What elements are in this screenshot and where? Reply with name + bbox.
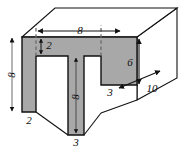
figure-root: 8 2 8 8 6 2 3 3 10 [0, 0, 181, 150]
dim-label-left-leg-width: 2 [26, 114, 32, 126]
dim-label-right-leg-width: 3 [106, 86, 113, 98]
dim-label-prism-depth: 10 [147, 82, 159, 94]
dim-label-flange-thickness: 2 [46, 39, 52, 51]
dim-label-stem-width: 3 [72, 136, 79, 148]
u-shaped-prism-svg: 8 2 8 8 6 2 3 3 10 [0, 0, 181, 150]
dim-label-top-width: 8 [77, 24, 83, 36]
dim-label-overall-height: 8 [5, 72, 17, 78]
dim-label-right-height: 6 [127, 56, 133, 68]
solid-body [22, 8, 177, 135]
dim-label-stem-height: 8 [69, 94, 81, 100]
